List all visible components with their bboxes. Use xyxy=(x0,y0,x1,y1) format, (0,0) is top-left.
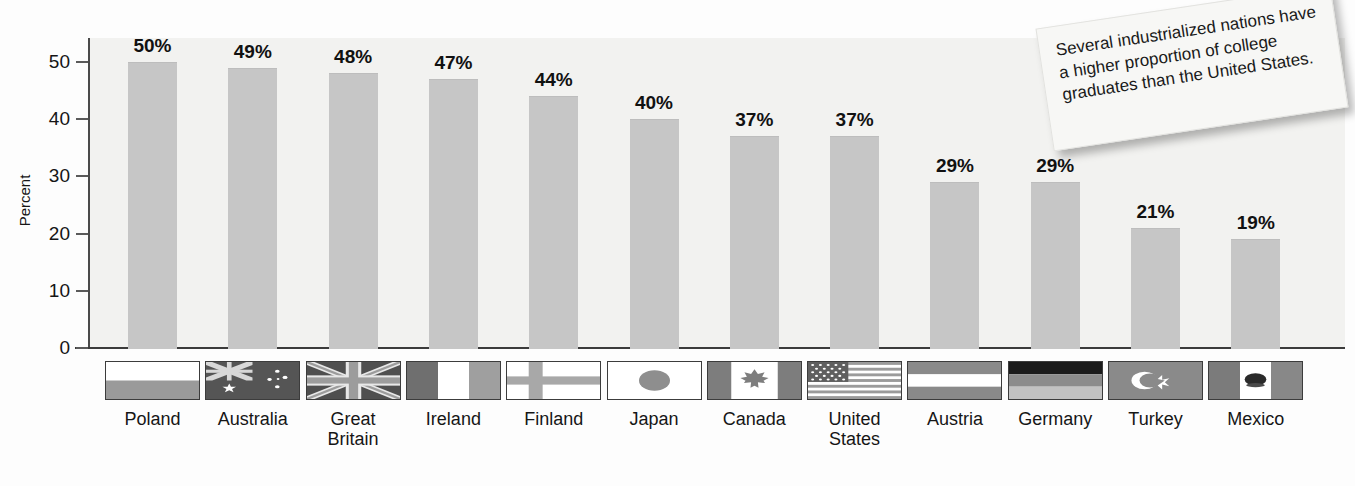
great-britain-flag-graphic xyxy=(307,362,400,399)
germany-flag-graphic xyxy=(1009,362,1102,399)
mexico-flag-graphic xyxy=(1209,362,1302,399)
bar[interactable] xyxy=(1031,182,1080,349)
japan-flag-graphic xyxy=(608,362,701,399)
country-label-line2: States xyxy=(785,429,925,449)
bar-value-label: 49% xyxy=(234,41,272,63)
bar-value-label: 37% xyxy=(836,109,874,131)
bar[interactable] xyxy=(228,68,277,349)
mexico-flag xyxy=(1208,361,1303,400)
y-tick-label: 50 xyxy=(49,51,70,73)
bar[interactable] xyxy=(830,136,879,349)
bar-value-label: 29% xyxy=(1036,155,1074,177)
bar-value-label: 47% xyxy=(434,52,472,74)
united-states-flag xyxy=(807,361,902,400)
poland-flag-graphic xyxy=(106,362,199,399)
japan-flag xyxy=(607,361,702,400)
canada-flag xyxy=(707,361,802,400)
bar-value-label: 19% xyxy=(1237,212,1275,234)
finland-flag xyxy=(506,361,601,400)
germany-flag xyxy=(1008,361,1103,400)
australia-flag xyxy=(205,361,300,400)
poland-flag xyxy=(105,361,200,400)
y-tick-40 xyxy=(76,118,88,120)
bar[interactable] xyxy=(529,96,578,349)
country-label-line1: Mexico xyxy=(1186,409,1326,429)
y-tick-label: 10 xyxy=(49,280,70,302)
country-label: Mexico xyxy=(1186,409,1326,429)
ireland-flag xyxy=(406,361,501,400)
bar-value-label: 29% xyxy=(936,155,974,177)
bar-value-label: 40% xyxy=(635,92,673,114)
y-tick-50 xyxy=(76,61,88,63)
bar[interactable] xyxy=(1231,239,1280,349)
ireland-flag-graphic xyxy=(407,362,500,399)
y-tick-0 xyxy=(76,347,88,349)
y-tick-30 xyxy=(76,175,88,177)
y-tick-label: 40 xyxy=(49,108,70,130)
bar-value-label: 44% xyxy=(535,69,573,91)
y-axis-line xyxy=(88,38,90,349)
bar[interactable] xyxy=(630,119,679,349)
bar[interactable] xyxy=(730,136,779,349)
bar-value-label: 48% xyxy=(334,46,372,68)
bar[interactable] xyxy=(128,62,177,349)
australia-flag-graphic xyxy=(206,362,299,399)
bar-value-label: 21% xyxy=(1136,201,1174,223)
austria-flag xyxy=(907,361,1002,400)
united-states-flag-graphic xyxy=(808,362,901,399)
bar-value-label: 50% xyxy=(133,35,171,57)
bar[interactable] xyxy=(429,79,478,349)
y-axis-label: Percent xyxy=(16,156,33,246)
chart-figure: 50403020100 Percent 50%49%48%47%44%40%37… xyxy=(0,0,1355,486)
bar[interactable] xyxy=(329,73,378,349)
great-britain-flag xyxy=(306,361,401,400)
bar-value-label: 37% xyxy=(735,109,773,131)
y-tick-10 xyxy=(76,290,88,292)
y-tick-label: 20 xyxy=(49,223,70,245)
callout-text: Several industrialized nations have a hi… xyxy=(1054,0,1329,107)
y-tick-20 xyxy=(76,233,88,235)
country-label-line2: Britain xyxy=(283,429,423,449)
turkey-flag xyxy=(1108,361,1203,400)
y-tick-label: 30 xyxy=(49,165,70,187)
finland-flag-graphic xyxy=(507,362,600,399)
bar[interactable] xyxy=(930,182,979,349)
austria-flag-graphic xyxy=(908,362,1001,399)
turkey-flag-graphic xyxy=(1109,362,1202,399)
y-tick-label: 0 xyxy=(59,337,70,359)
bar[interactable] xyxy=(1131,228,1180,349)
canada-flag-graphic xyxy=(708,362,801,399)
